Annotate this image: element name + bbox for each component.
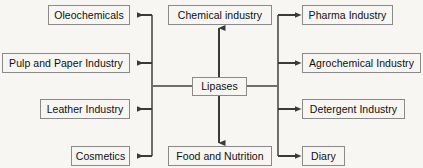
node-pulp-and-paper-industry[interactable]: Pulp and Paper Industry [2, 53, 130, 73]
node-chemical-industry[interactable]: Chemical industry [168, 5, 272, 25]
node-lipases-center[interactable]: Lipases [192, 77, 247, 96]
node-label: Pharma Industry [309, 10, 387, 21]
node-cosmetics[interactable]: Cosmetics [71, 146, 130, 166]
node-detergent-industry[interactable]: Detergent Industry [302, 99, 405, 119]
node-label: Cosmetics [76, 151, 125, 162]
node-label: Diary [311, 151, 336, 162]
node-diary[interactable]: Diary [302, 146, 345, 166]
node-label: Pulp and Paper Industry [9, 58, 123, 69]
node-label: Oleochemicals [54, 10, 124, 21]
node-agrochemical-industry[interactable]: Agrochemical Industry [302, 53, 421, 73]
node-label: Food and Nutrition [176, 151, 263, 162]
node-food-and-nutrition[interactable]: Food and Nutrition [168, 146, 272, 166]
node-label: Detergent Industry [310, 104, 397, 115]
node-oleochemicals[interactable]: Oleochemicals [48, 5, 130, 25]
node-pharma-industry[interactable]: Pharma Industry [302, 5, 393, 25]
node-label: Agrochemical Industry [309, 58, 414, 69]
node-label: Leather Industry [47, 104, 124, 115]
node-label: Chemical industry [178, 10, 262, 21]
node-label: Lipases [201, 81, 238, 92]
node-leather-industry[interactable]: Leather Industry [40, 99, 130, 119]
diagram-canvas: Oleochemicals Pulp and Paper Industry Le… [0, 0, 423, 168]
